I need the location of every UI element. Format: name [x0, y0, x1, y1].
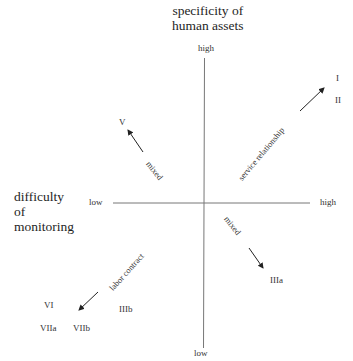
category-I: I [336, 73, 339, 83]
horizontal-axis-title-line2: of [14, 204, 74, 219]
vertical-axis-title-line1: specificity of [172, 3, 244, 18]
horizontal-axis-title: difficulty of monitoring [14, 189, 74, 234]
labor-contract-arrow [79, 292, 98, 310]
horizontal-axis-title-line3: monitoring [14, 219, 74, 234]
category-VIIb: VIIb [73, 323, 90, 333]
category-IIIb: IIIb [119, 304, 133, 314]
horizontal-low-label: low [89, 197, 103, 207]
category-VI: VI [44, 300, 54, 310]
mixed-upper-arrow [128, 130, 143, 152]
vertical-axis-title: specificity of human assets [172, 3, 244, 33]
vertical-high-label: high [198, 43, 214, 53]
vertical-axis-title-line2: human assets [172, 18, 244, 33]
horizontal-axis-title-line1: difficulty [14, 189, 74, 204]
mixed-lower-arrow [249, 248, 263, 268]
category-VIIa: VIIa [40, 323, 57, 333]
horizontal-high-label: high [320, 197, 336, 207]
service-relationship-arrow [300, 88, 324, 111]
category-II: II [335, 95, 341, 105]
vertical-low-label: low [194, 348, 208, 358]
category-IIIa: IIIa [270, 275, 283, 285]
category-V: V [119, 117, 126, 127]
